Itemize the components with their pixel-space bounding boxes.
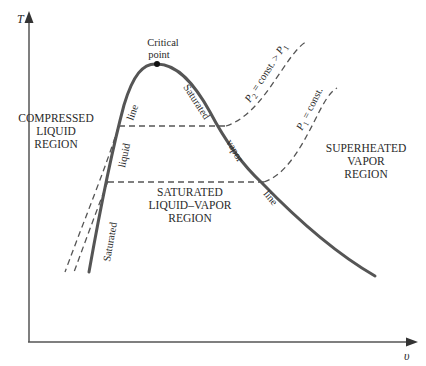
superheated-isobar-p2 — [226, 42, 306, 126]
svg-text:LIQUID: LIQUID — [36, 125, 76, 137]
svg-text:COMPRESSED: COMPRESSED — [18, 112, 93, 124]
svg-text:REGION: REGION — [344, 168, 388, 180]
svg-text:SUPERHEATED: SUPERHEATED — [326, 142, 407, 154]
svg-text:VAPOR: VAPOR — [347, 155, 385, 167]
tv-diagram: T υ Critical point COMPRESSED LIQUID REG… — [0, 0, 426, 366]
saturated-liquid-vapor-region-label: SATURATED LIQUID–VAPOR REGION — [149, 186, 232, 224]
critical-point-marker — [154, 61, 160, 67]
isobar-p2-label: P2 = const. > P1 — [242, 41, 291, 106]
svg-text:REGION: REGION — [168, 212, 212, 224]
superheated-isobar-p1 — [264, 88, 337, 182]
sat-liquid-label-saturated: Saturated — [101, 221, 119, 263]
svg-text:SATURATED: SATURATED — [157, 186, 223, 198]
sat-liquid-label-liquid: liquid — [116, 141, 132, 168]
sat-vapor-label-line: line — [261, 188, 280, 207]
superheated-vapor-region-label: SUPERHEATED VAPOR REGION — [326, 142, 407, 180]
x-axis-label: υ — [404, 349, 410, 363]
sat-liquid-label-line: line — [125, 103, 141, 122]
y-axis-label: T — [17, 12, 25, 26]
svg-text:LIQUID–VAPOR: LIQUID–VAPOR — [149, 199, 232, 211]
sat-vapor-label-saturated: Saturated — [181, 82, 212, 122]
critical-point-label-2: point — [148, 49, 170, 60]
critical-point-label-1: Critical — [147, 37, 179, 48]
svg-text:REGION: REGION — [34, 138, 78, 150]
isobar-p1-label: P1 = const. — [294, 86, 328, 135]
